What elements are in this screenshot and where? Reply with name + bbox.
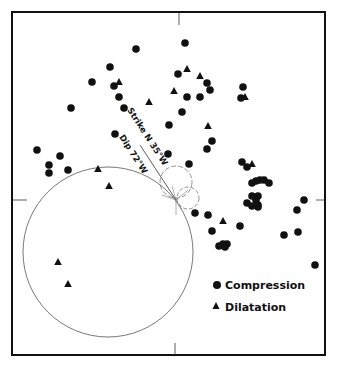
compression-point [56,152,64,160]
compression-point [67,104,75,112]
compression-point [204,211,212,219]
compression-point [45,169,53,177]
compression-point [311,261,319,269]
legend-dilatation-label: Dilatation [225,301,286,314]
legend-compression-label: Compression [225,279,305,292]
dilatation-point [115,78,123,85]
compression-point [300,196,308,204]
nodal-plane-circle [23,167,193,337]
axis-line-5 [176,200,182,210]
compression-point [236,222,244,230]
compression-point [203,79,211,87]
compression-point [203,145,211,153]
dilatation-point [219,217,227,224]
dilatation-point [183,65,191,72]
dilatation-point [170,87,178,94]
dilatation-point [196,72,204,79]
compression-point [88,78,96,86]
dilatation-points [54,65,256,287]
axis-line-3 [176,190,188,200]
dilatation-point [248,160,256,167]
legend: Compression Dilatation [213,279,306,314]
compression-point [254,203,262,211]
compression-point [293,206,301,214]
compression-point [115,93,123,101]
compression-point [185,160,193,168]
compression-point [265,179,273,187]
compression-point [280,231,288,239]
compression-point [33,146,41,154]
compression-point [223,240,231,248]
compression-point [178,108,186,116]
dilatation-point [204,122,212,129]
dilatation-point [94,165,102,172]
compression-point [294,228,302,236]
compression-point [106,63,114,71]
dilatation-point [54,258,62,265]
focal-mechanism-diagram: Strike N 35°W Dip 72°W Compression Dilat… [0,0,337,368]
compression-point [239,83,247,91]
compression-point [165,121,173,129]
compression-point [191,209,199,217]
compression-point [196,93,204,101]
compression-point [208,227,216,235]
compression-point [132,45,140,53]
compression-point [111,130,119,138]
legend-compression-icon [213,281,221,289]
compression-point [164,150,172,158]
compression-point [206,86,214,94]
compression-point [181,39,189,47]
dashed-circle-1 [160,166,192,198]
compression-point [64,166,72,174]
compression-point [208,137,216,145]
compression-point [174,70,182,78]
compression-point [120,104,128,112]
dilatation-point [105,182,113,189]
compression-point [183,93,191,101]
compression-points [33,39,319,269]
legend-dilatation-icon [213,302,220,309]
compression-point [45,161,53,169]
dilatation-point [145,98,153,105]
dilatation-point [64,280,72,287]
